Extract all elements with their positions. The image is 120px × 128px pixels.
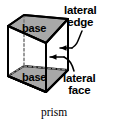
label-lateral-edge-line2: edge [64, 17, 96, 29]
curved-leader-line-icon [72, 31, 82, 48]
label-base-top: base [22, 23, 46, 34]
figure-caption: prism [41, 106, 67, 118]
label-lateral-face: lateral face [63, 73, 95, 96]
label-lateral-face-line1: lateral [63, 73, 95, 85]
prism-diagram: base base lateral edge lateral face pris… [0, 0, 120, 128]
label-base-bottom: base [22, 72, 46, 83]
label-lateral-edge: lateral edge [64, 5, 96, 28]
label-lateral-face-line2: face [63, 85, 95, 97]
label-lateral-edge-line1: lateral [64, 5, 96, 17]
